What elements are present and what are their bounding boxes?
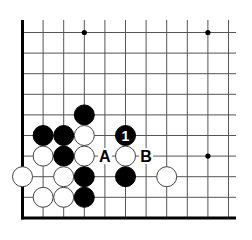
move-number-label: 1 xyxy=(122,128,130,144)
black-stone xyxy=(54,126,74,146)
white-stone xyxy=(116,146,136,166)
white-stone xyxy=(33,146,53,166)
star-point-icon xyxy=(205,30,210,35)
star-point-icon xyxy=(82,30,87,35)
white-stone xyxy=(74,126,94,146)
grid-lines xyxy=(21,20,236,219)
white-stone xyxy=(157,167,177,187)
black-stone xyxy=(33,126,53,146)
go-board: 1 AB xyxy=(0,0,252,240)
white-stone xyxy=(33,187,53,207)
black-stone xyxy=(74,105,94,125)
point-label-a: A xyxy=(99,148,111,165)
black-stone: 1 xyxy=(116,126,136,146)
black-stone xyxy=(74,187,94,207)
point-label-b: B xyxy=(140,148,152,165)
white-stone xyxy=(74,146,94,166)
black-stone xyxy=(116,167,136,187)
black-stone xyxy=(74,167,94,187)
white-stone xyxy=(54,167,74,187)
white-stone xyxy=(54,187,74,207)
star-point-icon xyxy=(205,154,210,159)
black-stone xyxy=(54,146,74,166)
white-stone xyxy=(13,167,33,187)
